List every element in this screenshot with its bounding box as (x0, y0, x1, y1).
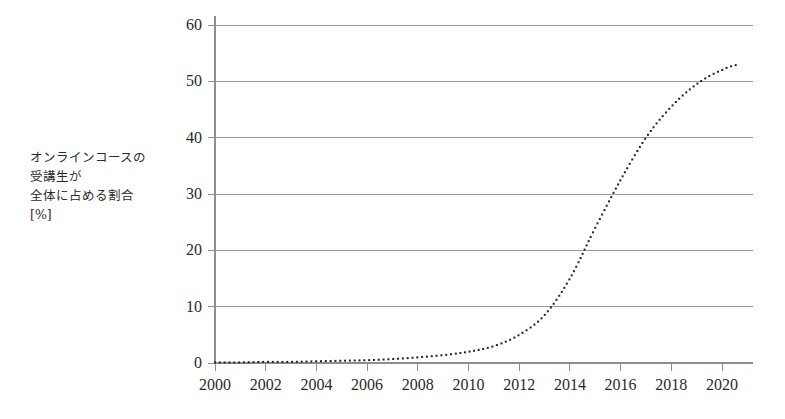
series-dot (310, 360, 312, 362)
series-dot (334, 360, 336, 362)
series-dot (603, 209, 605, 211)
series-dot (500, 342, 502, 344)
series-dot (582, 253, 584, 255)
series-dot (214, 361, 216, 363)
series-dot (219, 361, 221, 363)
y-tick-label-40: 40 (162, 130, 202, 146)
x-tick-label-2012: 2012 (491, 377, 547, 393)
series-dot (704, 77, 706, 79)
series-dot (675, 101, 677, 103)
series-dot (253, 361, 255, 363)
series-dot (517, 334, 519, 336)
series-dot (568, 278, 570, 280)
series-dot (601, 214, 603, 216)
plot-canvas (0, 0, 785, 419)
x-tick-label-2006: 2006 (339, 377, 395, 393)
x-tick-label-2004: 2004 (288, 377, 344, 393)
series-dot (696, 83, 698, 85)
series-dot (544, 314, 546, 316)
series-dot (599, 218, 601, 220)
series-dot (634, 154, 636, 156)
series-dot (411, 357, 413, 359)
series-dot (580, 257, 582, 259)
series-dot (296, 361, 298, 363)
gridlines-group (215, 25, 753, 307)
series-dotted-line (214, 64, 737, 363)
series-dot (713, 73, 715, 75)
series-dot (243, 361, 245, 363)
series-dot (553, 303, 555, 305)
series-dot (450, 353, 452, 355)
series-dot (533, 324, 535, 326)
series-dot (571, 274, 573, 276)
series-dot (306, 361, 308, 363)
series-dot (647, 134, 649, 136)
series-dot (659, 119, 661, 121)
series-dot (547, 310, 549, 312)
series-dot (682, 94, 684, 96)
x-tick-label-2000: 2000 (187, 377, 243, 393)
series-dot (588, 240, 590, 242)
series-dot (550, 306, 552, 308)
series-dot (700, 80, 702, 82)
series-dot (262, 361, 264, 363)
series-dot (291, 361, 293, 363)
y-tick-label-0: 0 (162, 355, 202, 371)
series-dot (584, 249, 586, 251)
series-dot (320, 360, 322, 362)
series-dot (277, 361, 279, 363)
series-dot (624, 171, 626, 173)
series-dot (224, 361, 226, 363)
series-dot (272, 361, 274, 363)
series-dot (469, 351, 471, 353)
series-dot (445, 354, 447, 356)
series-dot (228, 361, 230, 363)
series-dot (597, 222, 599, 224)
series-dot (541, 317, 543, 319)
x-tick-label-2014: 2014 (542, 377, 598, 393)
series-dot (561, 291, 563, 293)
series-dot (521, 332, 523, 334)
series-dot (578, 261, 580, 263)
series-dot (726, 67, 728, 69)
series-dot (639, 146, 641, 148)
series-dot (464, 351, 466, 353)
series-dot (491, 346, 493, 348)
series-dot (482, 348, 484, 350)
series-dot (717, 71, 719, 73)
series-dot (363, 359, 365, 361)
series-dot (606, 205, 608, 207)
series-dot (662, 115, 664, 117)
series-dot (330, 360, 332, 362)
series-dot (354, 359, 356, 361)
series-dot (590, 236, 592, 238)
series-dot (387, 358, 389, 360)
series-dot (641, 142, 643, 144)
series-dot (478, 349, 480, 351)
series-dot (586, 244, 588, 246)
series-dot (617, 183, 619, 185)
series-dot (650, 130, 652, 132)
series-dot (689, 88, 691, 90)
series-dot (440, 354, 442, 356)
series-dot (665, 111, 667, 113)
series-dot (339, 360, 341, 362)
series-dot (626, 167, 628, 169)
series-dot (693, 85, 695, 87)
series-dot (349, 360, 351, 362)
series-dot (281, 361, 283, 363)
y-tick-label-60: 60 (162, 17, 202, 33)
series-dot (397, 358, 399, 360)
series-dot (537, 321, 539, 323)
series-dot (653, 126, 655, 128)
series-dot (233, 361, 235, 363)
series-dot (325, 360, 327, 362)
series-dot (619, 179, 621, 181)
series-dot (735, 64, 737, 66)
x-tick-label-2016: 2016 (593, 377, 649, 393)
x-tick-label-2018: 2018 (643, 377, 699, 393)
series-dot (615, 188, 617, 190)
y-tick-label-20: 20 (162, 242, 202, 258)
y-tick-label-50: 50 (162, 73, 202, 89)
series-dot (436, 355, 438, 357)
